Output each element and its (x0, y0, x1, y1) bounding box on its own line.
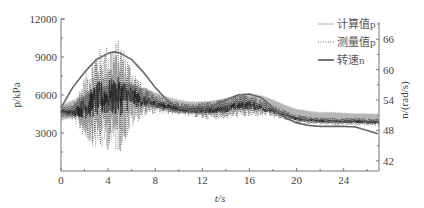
y-right-tick-label: 60 (383, 64, 395, 76)
legend-label-0: 计算值p (337, 17, 376, 30)
x-tick-label: 12 (197, 174, 208, 186)
legend-label-2: 转速n (337, 53, 365, 66)
y-right-tick-label: 66 (383, 33, 395, 45)
legend-label-1: 测量值p (337, 36, 376, 48)
y-right-tick-label: 48 (383, 124, 395, 136)
x-tick-label: 16 (244, 174, 256, 186)
y-left-tick-label: 3000 (35, 127, 58, 139)
y-axis-left-title: p/kPa (10, 82, 22, 107)
plot-area (61, 41, 379, 152)
y-left-tick-label: 12000 (30, 13, 58, 25)
x-tick-label: 24 (338, 174, 350, 186)
x-tick-label: 8 (152, 174, 158, 186)
chart-svg: 04812162024300060009000120004248546066 计… (0, 0, 424, 208)
measured-pressure-series (61, 41, 379, 152)
legend: 计算值p测量值p转速n (318, 17, 376, 66)
x-tick-label: 4 (105, 174, 111, 186)
y-axis-right-title: n/(rad/s) (398, 81, 411, 119)
y-left-tick-label: 9000 (35, 51, 58, 63)
x-tick-label: 0 (58, 174, 64, 186)
chart: 04812162024300060009000120004248546066 计… (0, 0, 424, 208)
x-tick-label: 20 (291, 174, 303, 186)
y-left-tick-label: 6000 (35, 89, 58, 101)
x-axis-title: t/s (215, 192, 225, 204)
y-right-tick-label: 54 (383, 94, 395, 106)
y-right-tick-label: 42 (383, 155, 394, 167)
